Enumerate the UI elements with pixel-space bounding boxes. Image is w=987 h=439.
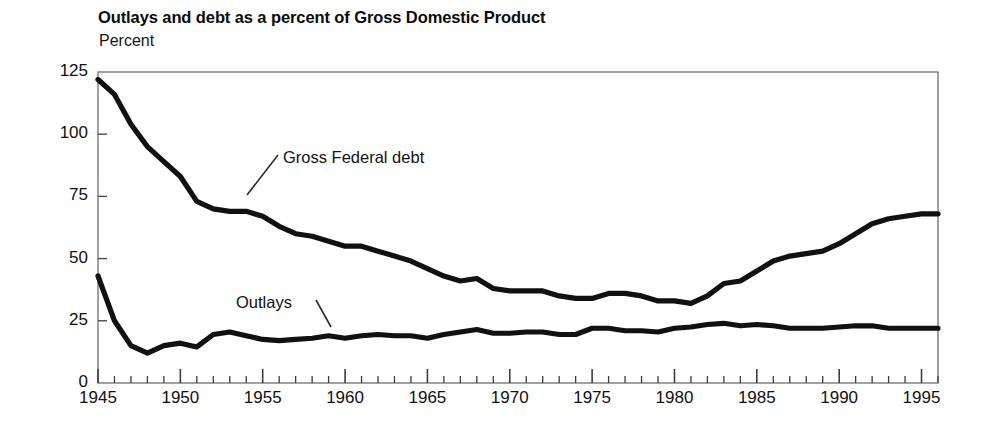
plot-area (0, 0, 987, 439)
y-axis-tick-label: 100 (60, 123, 88, 143)
series-label-gross-federal-debt: Gross Federal debt (283, 148, 424, 167)
x-axis-tick-label: 1985 (717, 388, 797, 408)
x-axis-tick-label: 1995 (882, 388, 962, 408)
plot-frame (98, 72, 938, 383)
y-axis-tick-label: 75 (69, 185, 88, 205)
x-axis-tick-label: 1980 (634, 388, 714, 408)
x-axis-tick-label: 1960 (305, 388, 385, 408)
series-label-outlays: Outlays (236, 293, 292, 312)
y-axis-tick-label: 50 (69, 248, 88, 268)
x-axis-tick-label: 1990 (799, 388, 879, 408)
x-axis-ticks (98, 369, 938, 383)
x-axis-tick-label: 1950 (140, 388, 220, 408)
x-axis-tick-label: 1965 (387, 388, 467, 408)
x-axis-tick-label: 1945 (58, 388, 138, 408)
y-axis-tick-label: 125 (60, 61, 88, 81)
chart-figure: Outlays and debt as a percent of Gross D… (0, 0, 987, 439)
y-axis-tick-label: 25 (69, 310, 88, 330)
x-axis-tick-label: 1970 (470, 388, 550, 408)
x-axis-tick-label: 1955 (223, 388, 303, 408)
data-series-lines (98, 79, 938, 353)
x-axis-tick-label: 1975 (552, 388, 632, 408)
